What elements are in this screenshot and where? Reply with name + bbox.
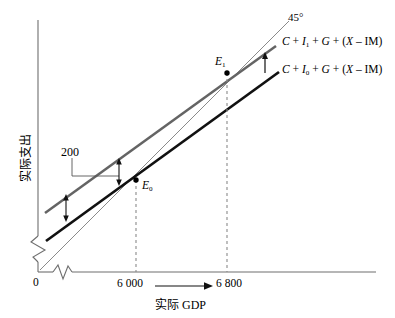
xtick-6000: 6 000	[117, 278, 143, 290]
y-axis-break-icon	[31, 236, 45, 262]
label-shift-amount: 200	[61, 146, 79, 158]
x-axis-break-icon	[53, 265, 72, 279]
xtick-6800: 6 800	[216, 278, 242, 290]
equilibrium-point-e1	[224, 70, 229, 75]
keynesian-cross-figure: 45° C + I1 + G + (X – IM) C + I0 + G + (…	[0, 0, 395, 318]
y-axis-title: 实际支出	[20, 134, 32, 182]
label-equilibrium-e1: E1	[215, 56, 226, 69]
equilibrium-point-e0	[133, 177, 138, 182]
label-expenditure-line-I0: C + I0 + G + (X – IM)	[282, 64, 382, 77]
label-45-degree: 45°	[288, 12, 303, 23]
gdp-change-arrow	[155, 282, 213, 290]
label-expenditure-line-I1: C + I1 + G + (X – IM)	[282, 36, 382, 49]
shift-label-leader	[72, 158, 119, 176]
expenditure-line-I1	[45, 46, 276, 213]
expenditure-line-I0	[46, 72, 279, 241]
label-equilibrium-e0: E0	[142, 180, 153, 193]
xtick-origin: 0	[33, 277, 39, 289]
x-axis-title: 实际 GDP	[155, 299, 206, 311]
